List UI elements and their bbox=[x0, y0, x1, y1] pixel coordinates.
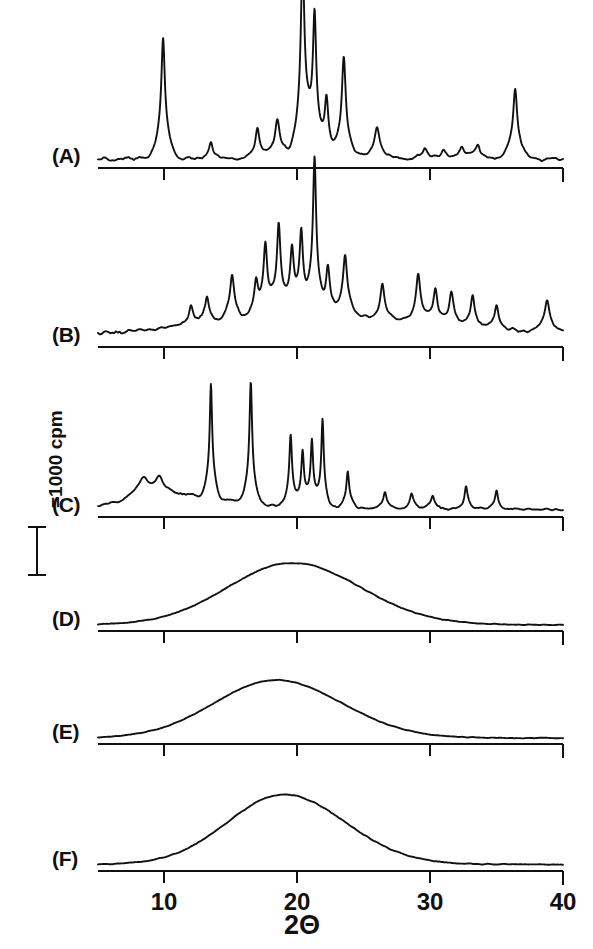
xrd-trace-a bbox=[98, 0, 563, 161]
x-tick-label-40: 40 bbox=[550, 890, 577, 914]
xrd-trace-d bbox=[98, 563, 563, 625]
x-tick-label-10: 10 bbox=[151, 890, 178, 914]
panel-label-d: (D) bbox=[52, 608, 80, 629]
xrd-trace-b bbox=[98, 156, 563, 334]
xrd-trace-f bbox=[98, 794, 563, 864]
xrd-trace-c bbox=[98, 383, 563, 510]
x-tick-label-30: 30 bbox=[417, 890, 444, 914]
scale-bar-caption: =1000 cpm bbox=[46, 410, 65, 508]
panel-label-a: (A) bbox=[52, 145, 80, 166]
x-axis-title: 2Θ bbox=[284, 912, 320, 939]
xrd-trace-e bbox=[98, 680, 563, 739]
panel-label-b: (B) bbox=[52, 324, 80, 345]
panel-label-e: (E) bbox=[52, 721, 79, 742]
xrd-figure: (A) (B) (C) (D) (E) (F) =1000 cpm 10 20 … bbox=[0, 0, 593, 949]
panel-label-f: (F) bbox=[52, 848, 78, 869]
xrd-plot-svg bbox=[0, 0, 593, 949]
